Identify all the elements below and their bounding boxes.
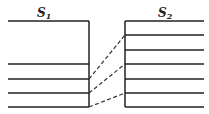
- label-s1: S1: [37, 6, 51, 21]
- dashed-connector: [89, 93, 125, 107]
- s1-s2-diagram: S1 S2: [0, 0, 209, 114]
- left-block-s1: [8, 21, 89, 107]
- dashed-connector: [89, 35, 125, 79]
- connectors: [89, 35, 125, 107]
- dashed-connector: [89, 64, 125, 93]
- right-block-s2: [125, 21, 204, 107]
- label-s2: S2: [158, 6, 173, 21]
